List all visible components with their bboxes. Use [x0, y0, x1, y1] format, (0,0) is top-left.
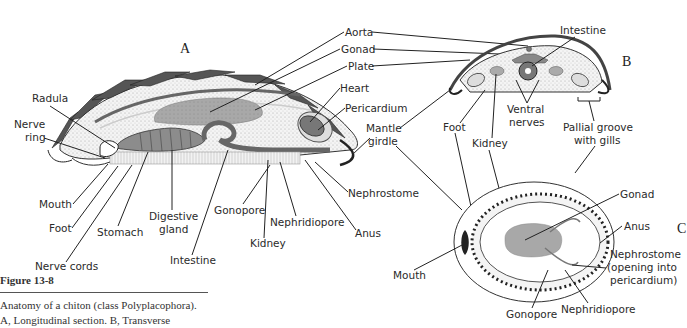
figure-title: Figure 13-8	[0, 274, 54, 286]
label-kidney-b: Kidney	[472, 137, 508, 149]
label-nerve-ring-1: Nerve	[14, 118, 45, 130]
leader-kidney-a	[264, 160, 268, 238]
kidney-b-right	[549, 67, 563, 76]
label-intestine-a: Intestine	[170, 254, 216, 266]
label-aorta: Aorta	[345, 26, 373, 38]
caption-line-1: Anatomy of a chiton (class Polyplacophor…	[0, 298, 197, 313]
panel-a-longitudinal-section: A	[48, 41, 358, 165]
label-ventral-nerves-2: nerves	[509, 116, 545, 128]
brace-pallial-groove	[578, 97, 600, 121]
label-digestive-gland-2: gland	[159, 223, 188, 235]
panel-label-b: B	[622, 54, 631, 69]
panel-b-transverse-section: B	[450, 36, 632, 94]
label-gonopore-c: Gonopore	[506, 308, 557, 320]
label-nephridiopore-c: Nephridiopore	[561, 303, 636, 315]
leader-mouth-a	[73, 164, 108, 204]
leader-pallial-groove-c	[575, 146, 595, 173]
label-mantle-girdle-2: girdle	[368, 135, 398, 147]
kidney-b-left	[490, 67, 504, 76]
label-nerve-ring-2: ring	[25, 131, 46, 143]
label-nephridiopore-a: Nephridiopore	[270, 216, 345, 228]
figure-caption: Anatomy of a chiton (class Polyplacophor…	[0, 298, 197, 328]
leader-nephrostome-a	[315, 162, 348, 192]
caption-line-2: A, Longitudinal section. B, Transverse	[0, 313, 197, 328]
leader-nephridiopore-a	[280, 162, 296, 216]
label-pericardium: Pericardium	[345, 102, 407, 114]
figure-title-rule	[0, 292, 208, 293]
label-mouth-a: Mouth	[39, 198, 72, 210]
label-pallial-groove-1: Pallial groove	[563, 121, 633, 133]
leader-intestine-a	[192, 150, 228, 255]
label-anus-a: Anus	[355, 227, 381, 239]
label-nephrostome-c-1: Nephrostome	[610, 248, 681, 260]
label-digestive-gland-1: Digestive	[149, 210, 198, 222]
leader-plate-b	[372, 60, 470, 66]
label-ventral-nerves-1: Ventral	[507, 103, 544, 115]
label-gonad-shared: Gonad	[341, 43, 375, 55]
label-heart: Heart	[340, 82, 369, 94]
leader-kidney-c	[489, 150, 500, 192]
label-gonopore-a: Gonopore	[214, 204, 265, 216]
label-plate: Plate	[348, 60, 374, 72]
leader-foot-b	[460, 90, 485, 123]
label-foot-a: Foot	[49, 222, 72, 234]
label-kidney-a: Kidney	[250, 237, 286, 249]
panel-label-a: A	[180, 41, 191, 56]
panel-label-c: C	[677, 221, 686, 236]
leader-aorta-a	[255, 32, 344, 85]
label-pallial-groove-2: with gills	[574, 134, 621, 146]
label-mouth-c: Mouth	[393, 269, 426, 281]
label-intestine-b: Intestine	[560, 24, 606, 36]
label-nephrostome-c-2: (opening into	[607, 261, 677, 273]
label-foot-b: Foot	[443, 121, 466, 133]
label-nephrostome-a: Nephrostome	[348, 187, 419, 199]
leader-nerve-cords	[66, 165, 132, 262]
foot-a	[110, 152, 300, 164]
leader-mantle-girdle-c	[396, 146, 462, 210]
label-stomach: Stomach	[97, 226, 143, 238]
aorta-b	[527, 47, 532, 52]
label-nephrostome-c-3: pericardium)	[610, 274, 677, 286]
label-gonad-c: Gonad	[620, 188, 654, 200]
label-radula: Radula	[32, 92, 68, 104]
intestine-lumen-b	[525, 68, 531, 74]
label-anus-c: Anus	[624, 220, 650, 232]
label-mantle-girdle-1: Mantle	[366, 122, 402, 134]
